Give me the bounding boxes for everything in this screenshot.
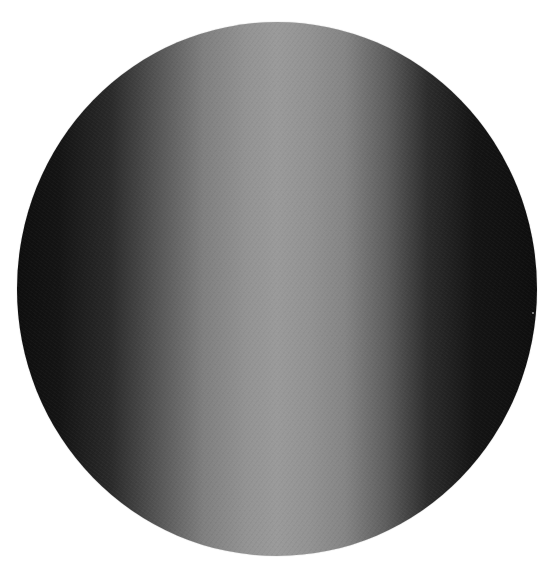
edge-speck (532, 312, 534, 314)
shaded-sphere-image (17, 22, 537, 556)
